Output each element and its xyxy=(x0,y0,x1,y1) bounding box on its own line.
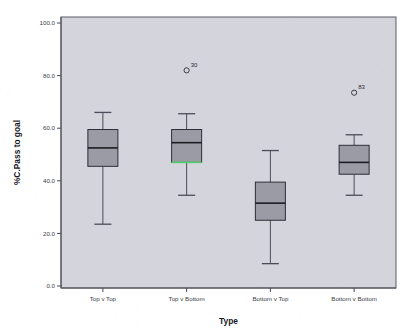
x-tick-label-0: Top v Top xyxy=(90,295,117,302)
y-tick-label-3: 60.0 xyxy=(43,124,56,131)
y-tick-label-2: 40.0 xyxy=(43,177,56,184)
y-tick-label-4: 80.0 xyxy=(43,72,56,79)
chart-canvas: 0.020.040.060.080.0100.0%C.Pass to goalT… xyxy=(0,0,412,335)
y-tick-label-0: 0.0 xyxy=(46,282,55,289)
y-tick-label-5: 100.0 xyxy=(40,19,56,26)
y-axis-title: %C.Pass to goal xyxy=(12,120,22,185)
box-3 xyxy=(339,145,369,174)
x-axis-title: Type xyxy=(219,316,238,326)
x-tick-label-2: Bottom v Top xyxy=(252,295,289,302)
box-2 xyxy=(255,182,285,220)
outlier-label-1-0: 30 xyxy=(191,62,198,68)
x-tick-label-1: Top v Bottom xyxy=(169,295,205,302)
boxplot-chart: 0.020.040.060.080.0100.0%C.Pass to goalT… xyxy=(0,0,412,335)
outlier-label-3-0: 83 xyxy=(358,84,365,90)
x-tick-label-3: Bottom v Bottom xyxy=(331,295,377,302)
y-tick-label-1: 20.0 xyxy=(43,230,56,237)
box-1 xyxy=(172,130,202,163)
